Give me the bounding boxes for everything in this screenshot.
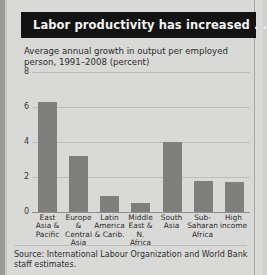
bar-cell	[219, 72, 250, 212]
y-axis-tick-label: 6	[16, 103, 29, 111]
page-right-rule	[254, 0, 255, 275]
bar-cell	[188, 72, 219, 212]
page-title: Labor productivity has increased . . .	[33, 18, 267, 32]
y-axis-tick-label: 2	[16, 173, 29, 181]
bar	[225, 182, 244, 212]
bar	[163, 142, 182, 212]
bar-cell	[63, 72, 94, 212]
x-axis-labels: East Asia & PacificEurope & Central Asia…	[32, 214, 249, 248]
y-axis-tick-label: 4	[16, 138, 29, 146]
y-axis-tick-label: 0	[16, 208, 29, 216]
bar-cell	[157, 72, 188, 212]
bar-series	[32, 72, 250, 212]
bar-cell	[32, 72, 63, 212]
bar-chart: 02468	[16, 64, 252, 212]
bar	[131, 203, 150, 212]
figure-page: Labor productivity has increased . . . A…	[0, 0, 267, 275]
x-axis-label: Latin America & Carib.	[94, 214, 125, 248]
x-axis-label: Middle East & N. Africa	[125, 214, 156, 248]
page-right-edge	[263, 0, 267, 275]
x-axis-label: East Asia & Pacific	[32, 214, 63, 248]
x-axis-label: South Asia	[156, 214, 187, 248]
x-axis-label: Sub- Saharan Africa	[187, 214, 218, 248]
bar-cell	[94, 72, 125, 212]
bar	[194, 181, 213, 213]
bar-cell	[125, 72, 156, 212]
bar	[69, 156, 88, 212]
page-left-inner-edge	[5, 0, 7, 275]
bar	[38, 102, 57, 212]
source-divider	[14, 245, 247, 246]
x-axis-label: High income	[218, 214, 249, 248]
x-axis-label: Europe & Central Asia	[63, 214, 94, 248]
y-axis-tick-label: 8	[16, 68, 29, 76]
bar	[100, 196, 119, 212]
title-banner: Labor productivity has increased . . .	[21, 12, 256, 38]
source-note: Source: International Labour Organizatio…	[14, 250, 249, 269]
